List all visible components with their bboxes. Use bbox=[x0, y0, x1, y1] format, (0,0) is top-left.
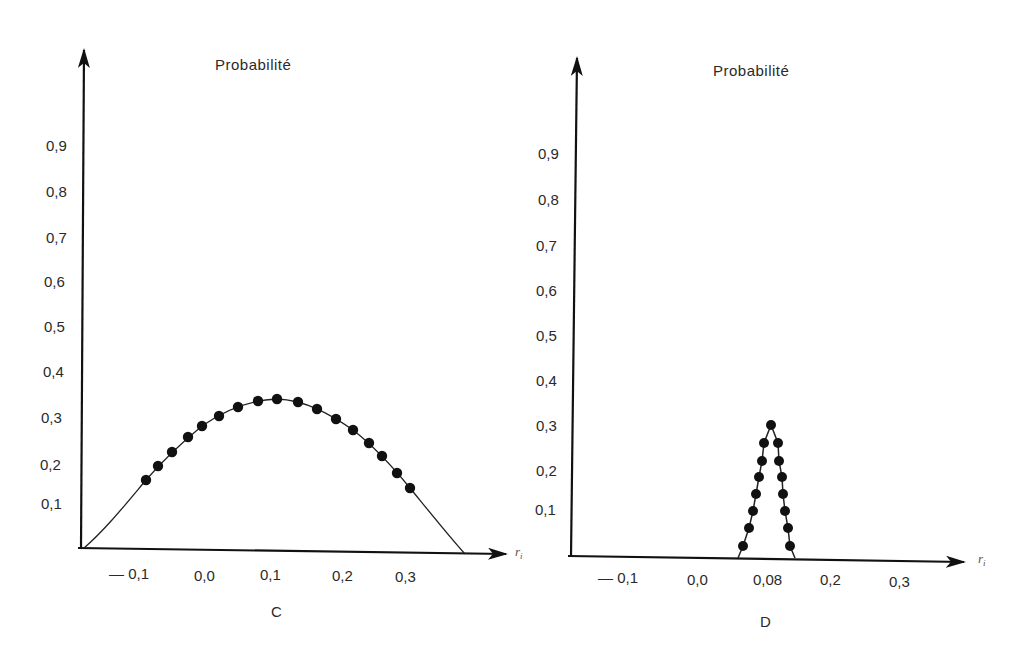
x-tick-label: 0,0 bbox=[194, 567, 215, 584]
data-point bbox=[757, 456, 767, 466]
chart-d: Probabilité 0,9 0,8 0,7 0,6 0,5 0,4 0,3 … bbox=[535, 58, 986, 630]
data-point bbox=[754, 472, 764, 482]
data-point bbox=[331, 414, 341, 424]
chart-title-d: Probabilité bbox=[713, 62, 789, 79]
data-point bbox=[272, 394, 282, 404]
x-tick-label: 0,2 bbox=[820, 571, 841, 588]
data-point bbox=[774, 456, 784, 466]
y-tick-label: 0,5 bbox=[536, 327, 557, 344]
x-tick-label: 0,3 bbox=[889, 573, 910, 590]
x-axis-label-d: ri bbox=[978, 551, 986, 568]
y-tick-label: 0,1 bbox=[535, 501, 556, 518]
curve-c bbox=[84, 399, 465, 554]
y-tick-label: 0,7 bbox=[536, 237, 557, 254]
y-tick-label: 0,2 bbox=[40, 456, 61, 473]
data-point bbox=[751, 489, 761, 499]
x-tick-label: 0,1 bbox=[260, 566, 281, 583]
data-point bbox=[183, 432, 193, 442]
y-axis-c bbox=[81, 50, 84, 549]
data-point bbox=[405, 483, 415, 493]
x-axis-c bbox=[78, 548, 506, 554]
y-tick-labels-d: 0,9 0,8 0,7 0,6 0,5 0,4 0,3 0,2 0,1 bbox=[535, 145, 559, 518]
y-tick-label: 0,7 bbox=[46, 229, 67, 246]
data-point bbox=[197, 421, 207, 431]
data-point bbox=[253, 396, 263, 406]
chart-caption-d: D bbox=[760, 613, 771, 630]
x-tick-label: — 0,1 bbox=[598, 569, 638, 586]
chart-c: Probabilité 0,9 0,8 0,7 0,6 0,5 0,4 0,3 … bbox=[40, 50, 523, 620]
y-tick-label: 0,3 bbox=[536, 417, 557, 434]
x-tick-label: — 0,1 bbox=[109, 565, 149, 582]
data-point bbox=[780, 506, 790, 516]
data-point bbox=[783, 523, 793, 533]
x-axis-d bbox=[568, 556, 964, 562]
y-tick-label: 0,4 bbox=[536, 372, 557, 389]
data-points-d bbox=[738, 420, 795, 551]
data-point bbox=[738, 541, 748, 551]
y-tick-label: 0,5 bbox=[44, 318, 65, 335]
data-point bbox=[153, 461, 163, 471]
x-tick-label: 0,0 bbox=[687, 571, 708, 588]
data-point bbox=[141, 475, 151, 485]
data-point bbox=[778, 489, 788, 499]
data-point bbox=[766, 420, 776, 430]
x-tick-labels-d: — 0,1 0,0 0,08 0,2 0,3 bbox=[598, 569, 910, 590]
x-axis-label-c: ri bbox=[515, 544, 523, 561]
y-tick-label: 0,8 bbox=[538, 191, 559, 208]
y-tick-label: 0,9 bbox=[538, 145, 559, 162]
data-point bbox=[785, 541, 795, 551]
data-point bbox=[759, 438, 769, 448]
data-point bbox=[744, 523, 754, 533]
y-tick-label: 0,9 bbox=[46, 137, 67, 154]
data-point bbox=[773, 438, 783, 448]
chart-caption-c: C bbox=[271, 603, 282, 620]
x-tick-label: 0,2 bbox=[332, 567, 353, 584]
y-tick-label: 0,1 bbox=[41, 495, 62, 512]
x-tick-labels-c: — 0,1 0,0 0,1 0,2 0,3 bbox=[109, 565, 416, 585]
data-point bbox=[214, 411, 224, 421]
data-point bbox=[233, 402, 243, 412]
chart-title-c: Probabilité bbox=[215, 56, 291, 73]
y-tick-label: 0,6 bbox=[44, 273, 65, 290]
figure: Probabilité 0,9 0,8 0,7 0,6 0,5 0,4 0,3 … bbox=[0, 0, 1016, 661]
y-tick-label: 0,3 bbox=[41, 409, 62, 426]
data-point bbox=[364, 438, 374, 448]
data-point bbox=[377, 451, 387, 461]
y-tick-label: 0,2 bbox=[536, 462, 557, 479]
data-point bbox=[748, 506, 758, 516]
data-point bbox=[392, 468, 402, 478]
y-tick-labels-c: 0,9 0,8 0,7 0,6 0,5 0,4 0,3 0,2 0,1 bbox=[40, 137, 67, 512]
x-tick-label: 0,3 bbox=[395, 568, 416, 585]
data-point bbox=[293, 397, 303, 407]
y-tick-label: 0,6 bbox=[536, 282, 557, 299]
data-point bbox=[348, 425, 358, 435]
x-tick-label: 0,08 bbox=[753, 571, 782, 588]
data-point bbox=[167, 447, 177, 457]
y-tick-label: 0,8 bbox=[46, 183, 67, 200]
data-point bbox=[312, 404, 322, 414]
y-tick-label: 0,4 bbox=[43, 363, 64, 380]
y-axis-d bbox=[571, 58, 577, 557]
data-point bbox=[777, 472, 787, 482]
